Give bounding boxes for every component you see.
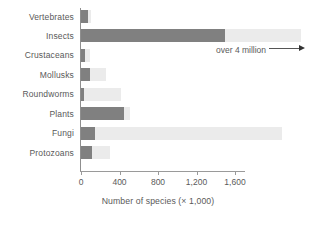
x-tick-1200 xyxy=(197,171,198,175)
category-label-column: Vertebrates Insects Crustaceans Mollusks… xyxy=(0,0,74,170)
bar-track-roundworms xyxy=(81,88,121,101)
plot-area xyxy=(81,8,315,168)
bar-fill-protozoans xyxy=(81,146,92,159)
bar-fill-roundworms xyxy=(81,88,84,101)
bar-fill-fungi xyxy=(81,127,95,140)
category-label-insects: Insects xyxy=(0,31,74,41)
bar-fill-plants xyxy=(81,107,124,120)
x-axis-line xyxy=(80,171,245,172)
x-tick-label-1600: 1,600 xyxy=(224,177,245,187)
bar-fill-crustaceans xyxy=(81,49,85,62)
annotation-arrow-head-icon xyxy=(299,45,305,51)
category-label-roundworms: Roundworms xyxy=(0,89,74,99)
bar-fill-vertebrates xyxy=(81,10,88,23)
category-label-crustaceans: Crustaceans xyxy=(0,50,74,60)
category-label-mollusks: Mollusks xyxy=(0,70,74,80)
x-tick-400 xyxy=(120,171,121,175)
x-tick-800 xyxy=(158,171,159,175)
x-axis-title: Number of species (× 1,000) xyxy=(0,196,316,206)
bar-fill-insects xyxy=(81,29,225,42)
x-tick-label-0: 0 xyxy=(79,177,84,187)
annotation-over-4-million: over 4 million xyxy=(216,45,266,55)
species-bar-chart: Vertebrates Insects Crustaceans Mollusks… xyxy=(0,0,316,226)
bar-fill-mollusks xyxy=(81,68,90,81)
x-tick-1600 xyxy=(235,171,236,175)
bar-track-fungi xyxy=(81,127,282,140)
category-label-fungi: Fungi xyxy=(0,128,74,138)
category-label-vertebrates: Vertebrates xyxy=(0,12,74,22)
category-label-plants: Plants xyxy=(0,109,74,119)
x-tick-0 xyxy=(81,171,82,175)
x-tick-label-400: 400 xyxy=(112,177,126,187)
annotation-arrow-line xyxy=(269,48,299,49)
x-tick-label-800: 800 xyxy=(151,177,165,187)
x-tick-label-1200: 1,200 xyxy=(186,177,207,187)
category-label-protozoans: Protozoans xyxy=(0,148,74,158)
